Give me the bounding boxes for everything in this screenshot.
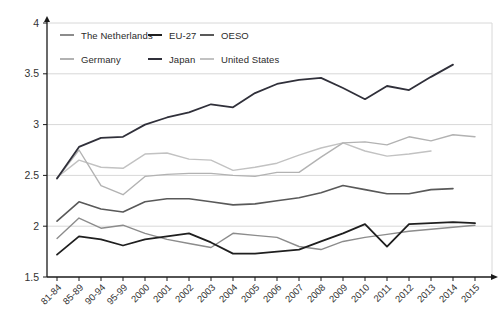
x-tick-label-2003: 2003 [195, 282, 218, 305]
series-line-japan [57, 65, 453, 179]
japan-line-swatch [148, 58, 162, 60]
netherlands-line-swatch [60, 34, 74, 36]
y-tick-label-2.5: 2.5 [24, 169, 39, 181]
legend-item-germany: Germany [60, 53, 121, 65]
y-tick-label-3: 3 [33, 118, 39, 130]
legend-label-united-states: United States [221, 54, 279, 65]
legend-item-japan: Japan [148, 53, 195, 65]
x-tick-label-2014: 2014 [437, 282, 460, 305]
series-line-eu-27 [57, 222, 475, 255]
x-tick-label-2011: 2011 [371, 282, 393, 304]
series-line-united-states [57, 143, 431, 178]
series-line-oeso [57, 186, 453, 222]
y-tick-label-3.5: 3.5 [24, 67, 39, 79]
legend-item-eu-27: EU-27 [148, 29, 196, 41]
x-tick-label-2009: 2009 [327, 282, 350, 305]
x-tick-label-2008: 2008 [305, 282, 328, 305]
legend-label-oeso: OESO [221, 30, 249, 41]
x-tick-label-2013: 2013 [415, 282, 438, 305]
x-tick-label-85-89: 85-89 [60, 282, 85, 307]
x-tick-label-2004: 2004 [217, 282, 240, 305]
x-tick-label-2006: 2006 [261, 282, 284, 305]
x-tick-label-2010: 2010 [349, 282, 372, 305]
chart-canvas: 43.532.521.581-8485-8990-9495-9920002001… [0, 0, 502, 323]
y-tick-label-1.5: 1.5 [24, 271, 39, 283]
legend-label-japan: Japan [169, 54, 195, 65]
y-axis-arrow [44, 16, 50, 22]
legend-label-eu-27: EU-27 [169, 30, 196, 41]
x-tick-label-2005: 2005 [239, 282, 262, 305]
x-tick-label-2012: 2012 [393, 282, 416, 305]
x-tick-label-95-99: 95-99 [104, 282, 129, 307]
x-tick-label-90-94: 90-94 [82, 282, 107, 307]
germany-line-swatch [60, 58, 74, 60]
x-axis-arrow [491, 274, 498, 280]
x-tick-label-2001: 2001 [151, 282, 174, 305]
eu-27-line-swatch [148, 34, 162, 36]
y-tick-label-2: 2 [33, 220, 39, 232]
legend-item-netherlands: The Netherlands [60, 29, 153, 41]
legend-item-united-states: United States [200, 53, 279, 65]
x-tick-label-2007: 2007 [283, 282, 306, 305]
x-tick-label-2000: 2000 [129, 282, 152, 305]
x-tick-label-2015: 2015 [459, 282, 482, 305]
x-tick-label-2002: 2002 [173, 282, 196, 305]
y-tick-label-4: 4 [33, 17, 39, 29]
oeso-line-swatch [200, 34, 214, 36]
legend-label-germany: Germany [81, 54, 121, 65]
legend-label-netherlands: The Netherlands [81, 30, 153, 41]
rd-intensity-line-chart: 43.532.521.581-8485-8990-9495-9920002001… [0, 0, 502, 323]
legend-item-oeso: OESO [200, 29, 249, 41]
united-states-line-swatch [200, 58, 214, 60]
x-tick-label-81-84: 81-84 [38, 282, 63, 307]
